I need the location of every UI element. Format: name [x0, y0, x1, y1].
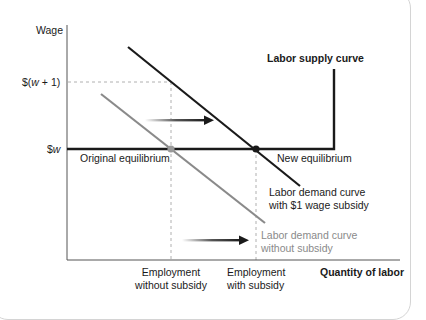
y-tick-w-plus-1: $(w + 1): [22, 76, 60, 89]
x-tick-employment-without-subsidy: Employment without subsidy: [130, 266, 212, 292]
shift-arrow-lower: [182, 236, 249, 246]
y-tick-w: $w: [47, 143, 60, 156]
y-axis-label: Wage: [36, 24, 63, 37]
demand-without-subsidy-label: Labor demand curve without subsidy: [261, 229, 357, 255]
label-line-1: Employment: [130, 266, 212, 279]
tick-var: w: [31, 76, 39, 88]
labor-supply-curve: [67, 69, 334, 149]
label-line-2: with $1 wage subsidy: [269, 199, 369, 212]
arrowhead-icon: [239, 236, 249, 246]
x-tick-employment-with-subsidy: Employment with subsidy: [227, 266, 285, 292]
dashed-guides: [68, 82, 256, 260]
label-line-2: without subsidy: [130, 279, 212, 292]
label-line-2: without subsidy: [261, 242, 357, 255]
new-equilibrium-label: New equilibrium: [277, 152, 352, 165]
tick-prefix: $(: [22, 76, 31, 88]
new-equilibrium-point: [252, 145, 259, 152]
shift-arrow-upper: [145, 116, 214, 126]
label-line-1: Labor demand curve: [261, 229, 357, 242]
demand-with-subsidy-label: Labor demand curve with $1 wage subsidy: [269, 186, 369, 212]
original-equilibrium-label: Original equilibrium: [80, 152, 170, 165]
tick-var: w: [53, 143, 61, 155]
label-line-2: with subsidy: [227, 279, 285, 292]
label-line-1: Labor demand curve: [269, 186, 369, 199]
x-axis-label: Quantity of labor: [320, 266, 404, 279]
demand-curve-with-subsidy: [128, 47, 300, 186]
label-line-1: Employment: [227, 266, 285, 279]
supply-curve-label: Labor supply curve: [267, 52, 364, 65]
arrowhead-icon: [204, 116, 214, 126]
tick-suffix: + 1): [39, 76, 60, 88]
